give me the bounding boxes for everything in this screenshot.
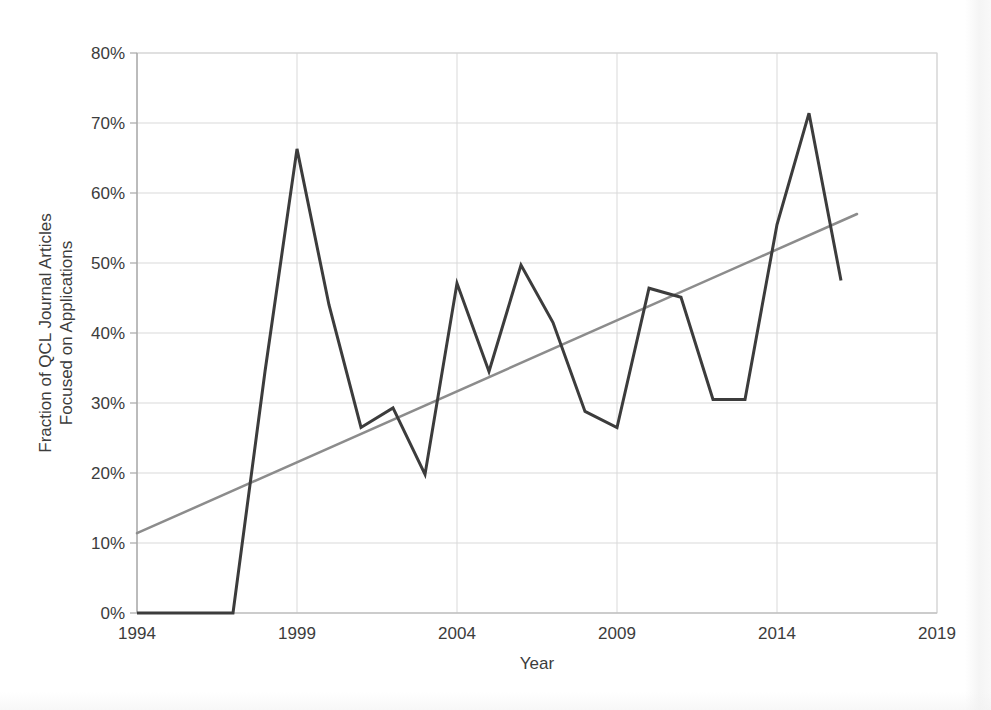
y-tick-label-50: 50% (91, 254, 125, 273)
y-axis-tick-labels: 0%10%20%30%40%50%60%70%80% (91, 44, 137, 623)
y-tick-label-20: 20% (91, 464, 125, 483)
y-tick-label-0: 0% (100, 604, 125, 623)
y-axis-title-line-2: Focused on Applications (57, 241, 76, 425)
y-tick-label-60: 60% (91, 184, 125, 203)
y-axis-title: Fraction of QCL Journal Articles Focused… (36, 213, 76, 452)
y-tick-label-40: 40% (91, 324, 125, 343)
chart-container: 0%10%20%30%40%50%60%70%80% 1994199920042… (0, 0, 991, 710)
y-tick-label-80: 80% (91, 44, 125, 63)
x-tick-label-2014: 2014 (758, 624, 796, 643)
x-tick-label-2019: 2019 (918, 624, 956, 643)
y-tick-label-30: 30% (91, 394, 125, 413)
x-axis-title: Year (520, 654, 555, 673)
x-tick-label-1999: 1999 (278, 624, 316, 643)
x-axis-tick-labels: 199419992004200920142019 (118, 624, 956, 643)
x-tick-label-1994: 1994 (118, 624, 156, 643)
y-tick-label-70: 70% (91, 114, 125, 133)
x-tick-label-2004: 2004 (438, 624, 476, 643)
y-tick-label-10: 10% (91, 534, 125, 553)
y-axis-title-line-1: Fraction of QCL Journal Articles (36, 213, 55, 452)
line-chart: 0%10%20%30%40%50%60%70%80% 1994199920042… (0, 0, 991, 710)
x-tick-label-2009: 2009 (598, 624, 636, 643)
